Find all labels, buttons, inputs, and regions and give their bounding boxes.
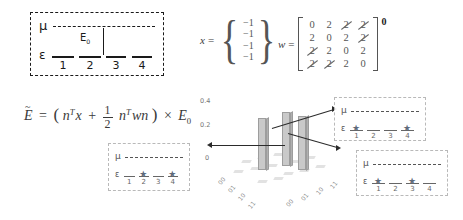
inset-occupation-star-4: ★ bbox=[403, 124, 411, 133]
inset-occupation-star-4: ★ bbox=[168, 170, 176, 179]
axis-right-cat-11: 11 bbox=[329, 180, 338, 190]
matrix-cell-1-1: 0 bbox=[321, 31, 338, 44]
inset-level-number-4: 4 bbox=[401, 133, 414, 140]
matrix-body: 0222202222022220 bbox=[303, 16, 373, 72]
vector-x-value-0: −1 bbox=[243, 18, 254, 28]
matrix-cell-2-2: 0 bbox=[338, 44, 355, 57]
inset-energy-level-3 bbox=[153, 176, 164, 177]
vector-x-equals: = bbox=[208, 34, 214, 46]
inset-level-number-3: 3 bbox=[153, 179, 164, 186]
matrix-row: 2202 bbox=[304, 44, 372, 57]
inset-bottom-left: με12★34★ bbox=[108, 143, 190, 191]
inset-occupation-star-2: ★ bbox=[139, 170, 147, 179]
inset-occupation-star-1: ★ bbox=[374, 177, 382, 186]
level-number-4: 4 bbox=[132, 60, 152, 71]
formula-equals: = bbox=[39, 108, 47, 123]
formula-n-1: n bbox=[63, 108, 70, 123]
floor-pad bbox=[257, 180, 268, 183]
matrix-cell-3-0: 2 bbox=[304, 57, 321, 70]
inset-mu-dashed-line bbox=[125, 157, 183, 158]
inset-mu-label: μ bbox=[363, 159, 369, 168]
inset-occupation-star-3: ★ bbox=[408, 177, 416, 186]
formula-x: x bbox=[75, 108, 81, 123]
axis-left-cat-11: 11 bbox=[247, 200, 256, 210]
formula-n-2: n bbox=[119, 108, 126, 123]
matrix-w-equals: = bbox=[288, 38, 294, 50]
inset-epsilon-label: ε bbox=[363, 178, 367, 186]
matrix-cell-1-0: 2 bbox=[304, 31, 321, 44]
matrix-row: 0222 bbox=[304, 18, 372, 31]
z-tick-0.4: 0.4 bbox=[200, 98, 210, 105]
axis-left-cat-00: 00 bbox=[217, 176, 226, 186]
inset-mu-label: μ bbox=[115, 152, 121, 161]
arrow-head-bottom-right bbox=[336, 145, 341, 151]
formula-close-paren: ) bbox=[152, 105, 158, 124]
figure-canvas: μ ε 1 2 3 4 E0 x = { −1 −1 −1 −1 bbox=[0, 0, 463, 220]
formula-transpose-2: T bbox=[126, 107, 131, 117]
inset-epsilon-label: ε bbox=[115, 171, 119, 179]
vector-right-brace: } bbox=[257, 14, 274, 66]
inset-energy-level-2 bbox=[389, 183, 402, 184]
formula-tilde: ~ bbox=[25, 101, 30, 112]
energy-distribution-3d-plot: 0.4 0.2 0 00 01 10 11 bbox=[196, 98, 346, 216]
axis-right-cat-01: 01 bbox=[300, 192, 309, 202]
matrix-cell-0-1: 2 bbox=[321, 18, 338, 31]
floor-pad bbox=[241, 160, 252, 163]
bar-front-face bbox=[298, 116, 306, 170]
e0-arrow-shaft bbox=[103, 28, 104, 55]
matrix-row: 2220 bbox=[304, 57, 372, 70]
inset-energy-level-4 bbox=[423, 183, 436, 184]
inset-level-number-2: 2 bbox=[367, 133, 380, 140]
inset-level-number-1: 1 bbox=[350, 133, 363, 140]
inset-bottom-right: με1★23★4 bbox=[356, 150, 448, 196]
vector-x-value-1: −1 bbox=[243, 29, 254, 39]
matrix-row: 2022 bbox=[304, 31, 372, 44]
inset-energy-level-2 bbox=[367, 130, 380, 131]
inset-level-number-4: 4 bbox=[168, 179, 179, 186]
axis-right-cat-10: 10 bbox=[315, 186, 324, 196]
matrix-cell-1-2: 2 bbox=[338, 31, 355, 44]
z-tick-0.2: 0.2 bbox=[200, 122, 210, 129]
floor-pad bbox=[315, 165, 326, 168]
inset-occupation-star-1: ★ bbox=[352, 124, 360, 133]
matrix-cell-3-2: 2 bbox=[338, 57, 355, 70]
formula-frac-denominator: 2 bbox=[103, 118, 113, 131]
arrow-head-bottom-left bbox=[207, 142, 212, 148]
bar-10-01 bbox=[282, 112, 290, 166]
inset-top-right: με1★234★ bbox=[334, 97, 426, 141]
matrix-w-expression: w = 0222202222022220 0 bbox=[278, 16, 387, 72]
level-number-3: 3 bbox=[106, 60, 126, 71]
e0-gap-label-sub: 0 bbox=[86, 38, 90, 45]
arrow-to-bottom-left-inset bbox=[212, 145, 285, 146]
inset-energy-level-1 bbox=[124, 176, 135, 177]
formula-frac-numerator: 1 bbox=[103, 104, 113, 118]
bar-side-face bbox=[266, 117, 269, 170]
matrix-trailing-zero: 0 bbox=[382, 16, 387, 27]
formula-E0: E bbox=[178, 108, 187, 123]
inset-mu-dashed-line bbox=[373, 164, 441, 165]
formula-w: w bbox=[132, 108, 141, 123]
bar-side-face bbox=[290, 111, 293, 166]
vector-x-name: x bbox=[200, 34, 205, 46]
matrix-cell-1-3: 2 bbox=[355, 31, 372, 44]
energy-level-1 bbox=[52, 56, 74, 58]
inset-level-number-3: 3 bbox=[406, 186, 419, 193]
energy-level-4 bbox=[132, 56, 152, 58]
formula-open-paren: ( bbox=[53, 105, 59, 124]
formula-n-3: n bbox=[141, 108, 148, 123]
formula-transpose-1: T bbox=[70, 107, 75, 117]
energy-level-3 bbox=[106, 56, 126, 58]
main-energy-level-box: μ ε 1 2 3 4 E0 bbox=[30, 12, 164, 76]
formula-times: × bbox=[164, 108, 172, 123]
inset-level-number-3: 3 bbox=[384, 133, 397, 140]
bar-side-face bbox=[306, 115, 309, 170]
floor-pad bbox=[233, 170, 244, 173]
inset-level-number-1: 1 bbox=[124, 179, 135, 186]
inset-level-number-2: 2 bbox=[389, 186, 402, 193]
level-number-2: 2 bbox=[79, 60, 101, 71]
formula-E0-sub: 0 bbox=[187, 116, 191, 126]
matrix-w-name: w bbox=[278, 38, 285, 50]
inset-energy-level-3 bbox=[384, 130, 397, 131]
axis-left-cat-01: 01 bbox=[227, 184, 236, 194]
matrix-cell-0-0: 0 bbox=[304, 18, 321, 31]
